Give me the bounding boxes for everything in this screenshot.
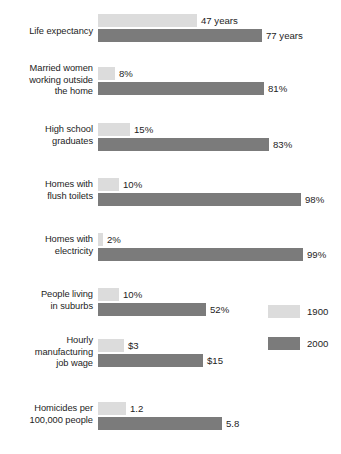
category-label-line: Homes with [0,179,93,191]
bar-value-label: 10% [123,178,142,191]
category-label-line: Married women [0,63,93,75]
bar-homes-with-electricity-1900 [98,233,103,246]
category-label-line: Hourly [0,335,93,347]
category-label-homicides-per-100000-people: Homicides per100,000 people [0,403,93,426]
bar-value-label: 77 years [266,29,303,42]
bar-hourly-manufacturing-job-wage-2000 [98,354,203,367]
legend-swatch-2000 [268,337,300,350]
category-label-line: in suburbs [0,301,93,313]
bar-people-living-in-suburbs-2000 [98,303,206,316]
bar-value-label: 98% [305,193,324,206]
bar-value-label: 81% [268,82,287,95]
bar-value-label: 8% [119,67,133,80]
category-label-line: Homicides per [0,403,93,415]
bar-value-label: 52% [210,303,229,316]
bar-life-expectancy-1900 [98,14,197,27]
category-label-line: High school [0,124,93,136]
bar-homes-with-flush-toilets-1900 [98,178,119,191]
category-label-line: graduates [0,136,93,148]
bar-value-label: 99% [307,248,326,261]
category-label-people-living-in-suburbs: People livingin suburbs [0,289,93,312]
bar-homicides-per-100000-people-1900 [98,402,126,415]
bar-value-label: 10% [123,288,142,301]
category-label-line: People living [0,289,93,301]
category-label-high-school-graduates: High schoolgraduates [0,124,93,147]
category-label-homes-with-flush-toilets: Homes withflush toilets [0,179,93,202]
category-label-line: working outside [0,75,93,87]
category-label-line: 100,000 people [0,415,93,427]
legend-label-2000: 2000 [307,337,328,350]
category-label-line: Homes with [0,234,93,246]
bar-homicides-per-100000-people-2000 [98,417,222,430]
bar-hourly-manufacturing-job-wage-1900 [98,339,124,352]
category-label-line: job wage [0,358,93,370]
bar-life-expectancy-2000 [98,29,262,42]
bar-value-label: 15% [134,123,153,136]
category-label-hourly-manufacturing-job-wage: Hourlymanufacturingjob wage [0,335,93,370]
bar-homes-with-flush-toilets-2000 [98,193,301,206]
bar-value-label: 1.2 [130,402,143,415]
category-label-homes-with-electricity: Homes withelectricity [0,234,93,257]
bar-value-label: 5.8 [226,417,239,430]
bar-value-label: 2% [107,233,121,246]
bar-value-label: $15 [207,354,223,367]
category-label-life-expectancy: Life expectancy [0,26,93,38]
bar-value-label: 83% [273,138,292,151]
bar-value-label: $3 [128,339,139,352]
category-label-line: manufacturing [0,347,93,359]
category-label-line: flush toilets [0,191,93,203]
category-label-line: the home [0,86,93,98]
category-label-line: electricity [0,246,93,258]
category-label-line: Life expectancy [0,26,93,38]
category-label-married-women-working-outside-home: Married womenworking outsidethe home [0,63,93,98]
legend-label-1900: 1900 [307,305,328,318]
bar-value-label: 47 years [201,14,238,27]
bar-chart: Life expectancy47 years77 yearsMarried w… [0,0,341,454]
bar-high-school-graduates-2000 [98,138,269,151]
legend-swatch-1900 [268,305,300,318]
bar-married-women-working-outside-home-1900 [98,67,115,80]
bar-homes-with-electricity-2000 [98,248,303,261]
bar-high-school-graduates-1900 [98,123,130,136]
bar-married-women-working-outside-home-2000 [98,82,264,95]
bar-people-living-in-suburbs-1900 [98,288,119,301]
